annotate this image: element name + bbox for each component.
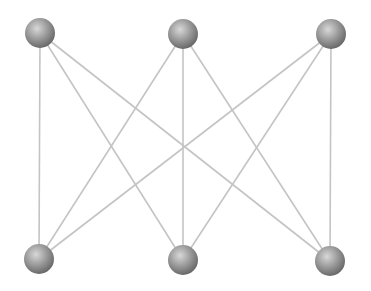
node-t2 (168, 19, 198, 49)
node-t1 (25, 18, 55, 48)
node-b3 (315, 246, 345, 276)
node-b2 (168, 245, 198, 275)
node-t3 (316, 19, 346, 49)
edge-t3-b1 (39, 34, 331, 259)
edge-t3-b3 (330, 34, 331, 261)
edge-t1-b1 (39, 33, 40, 259)
edges (39, 33, 331, 261)
node-b1 (24, 244, 54, 274)
bipartite-graph-diagram (0, 0, 371, 291)
